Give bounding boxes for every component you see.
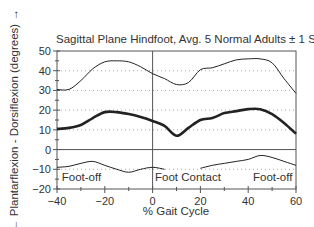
y-axis: 50403020100−10−20 [32, 45, 60, 195]
grid-lines [57, 51, 296, 189]
y-tick-label: 10 [39, 124, 51, 136]
series-line [57, 59, 296, 94]
chart: Sagittal Plane Hindfoot, Avg. 5 Normal A… [0, 0, 314, 227]
event-annotation: Foot-off [253, 171, 293, 183]
series-lines [57, 59, 296, 173]
y-tick-label: 40 [39, 65, 51, 77]
y-tick-label: 30 [39, 84, 51, 96]
plot-area [57, 51, 296, 189]
x-tick-label: −20 [95, 195, 114, 207]
x-tick-label: 60 [290, 195, 302, 207]
annotations: Foot-offFoot ContactFoot-off [62, 171, 293, 183]
x-tick-label: −40 [48, 195, 67, 207]
series-line [57, 109, 296, 136]
event-annotation: Foot Contact [155, 171, 222, 183]
event-annotation: Foot-off [62, 171, 102, 183]
x-tick-label: 40 [242, 195, 254, 207]
y-tick-label: 50 [39, 45, 51, 57]
x-axis-title: % Gait Cycle [143, 205, 209, 217]
y-axis-title: ← Plantarflexion - Dorsiflexion (degrees… [8, 9, 20, 227]
y-tick-label: −20 [32, 183, 51, 195]
y-tick-label: 0 [45, 144, 51, 156]
y-tick-label: 20 [39, 104, 51, 116]
chart-title: Sagittal Plane Hindfoot, Avg. 5 Normal A… [56, 33, 314, 45]
y-tick-label: −10 [32, 163, 51, 175]
series-line [200, 155, 296, 168]
